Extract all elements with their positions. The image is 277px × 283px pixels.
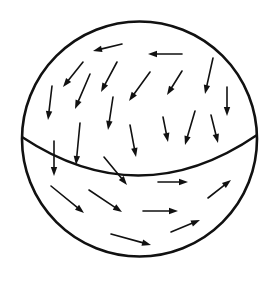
arrow-shaft — [130, 125, 135, 149]
equator-line — [22, 135, 257, 176]
arrow-shaft — [109, 97, 113, 122]
arrow-shaft — [101, 44, 122, 49]
vector-arrow — [101, 62, 117, 92]
arrow-shaft — [104, 157, 122, 179]
arrow-shaft — [51, 186, 78, 208]
vector-arrow — [93, 44, 122, 52]
arrowhead-icon — [106, 121, 112, 130]
arrowhead-icon — [167, 86, 174, 95]
arrowhead-icon — [190, 220, 200, 226]
arrowhead-icon — [131, 148, 137, 157]
arrow-shaft — [207, 58, 213, 86]
vector-arrow — [211, 115, 219, 143]
arrow-shaft — [187, 111, 195, 137]
vector-arrow — [51, 141, 57, 176]
vector-arrow — [74, 123, 80, 165]
arrowhead-icon — [224, 107, 230, 116]
arrowhead-icon — [46, 111, 52, 120]
vector-arrow — [63, 62, 83, 87]
arrowhead-icon — [129, 92, 137, 101]
arrow-shaft — [208, 185, 225, 198]
arrow-shaft — [163, 117, 166, 134]
arrowhead-icon — [93, 46, 102, 52]
vector-arrow — [204, 58, 213, 94]
vector-arrow — [143, 208, 178, 214]
vector-arrow — [158, 179, 188, 185]
arrow-shaft — [171, 223, 193, 232]
arrowhead-icon — [169, 208, 178, 214]
arrowhead-icon — [179, 179, 188, 185]
vector-arrow — [106, 97, 113, 130]
arrowhead-icon — [141, 240, 151, 246]
vector-arrow — [184, 111, 195, 145]
arrow-shaft — [77, 123, 80, 157]
arrowhead-icon — [113, 204, 122, 212]
diagram-canvas — [0, 0, 277, 283]
arrow-shaft — [111, 234, 143, 243]
vector-arrow — [46, 86, 52, 120]
arrowhead-icon — [204, 85, 210, 94]
arrowhead-icon — [213, 133, 219, 143]
vector-arrow — [171, 220, 200, 232]
vector-arrow — [163, 117, 169, 142]
vector-arrow — [111, 234, 151, 246]
arrowhead-icon — [51, 167, 57, 176]
arrowhead-icon — [101, 83, 108, 92]
vector-arrow — [129, 72, 150, 101]
arrow-shaft — [78, 74, 90, 102]
vector-arrow — [51, 186, 84, 213]
sphere-outline — [22, 22, 257, 257]
vector-arrow — [130, 125, 137, 157]
vector-arrow — [224, 87, 230, 116]
sphere-vector-field-diagram — [0, 0, 277, 283]
arrow-shaft — [211, 115, 216, 135]
vector-arrow — [167, 71, 182, 95]
vector-arrow — [89, 190, 122, 212]
arrowhead-icon — [163, 133, 169, 142]
arrow-shaft — [89, 190, 115, 208]
vector-arrow — [148, 51, 182, 57]
arrow-shaft — [105, 62, 117, 85]
arrowhead-icon — [75, 99, 81, 109]
arrow-shaft — [171, 71, 182, 88]
arrow-shaft — [68, 62, 83, 81]
arrow-shaft — [49, 86, 52, 112]
arrowhead-icon — [184, 135, 190, 145]
vector-arrow — [75, 74, 90, 109]
vector-arrow — [208, 180, 231, 198]
vector-arrows-group — [46, 44, 231, 246]
vector-arrow — [104, 157, 127, 185]
arrow-shaft — [134, 72, 150, 95]
arrowhead-icon — [148, 51, 157, 57]
